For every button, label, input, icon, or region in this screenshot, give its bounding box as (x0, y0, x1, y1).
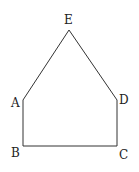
vertex-label-c: C (119, 148, 128, 162)
vertex-label-e: E (64, 13, 73, 27)
pentagon-diagram: E A D B C (0, 0, 139, 172)
pentagon-shape (23, 30, 117, 146)
vertex-label-d: D (119, 93, 129, 107)
vertex-label-a: A (10, 96, 20, 110)
vertex-label-b: B (11, 146, 20, 160)
